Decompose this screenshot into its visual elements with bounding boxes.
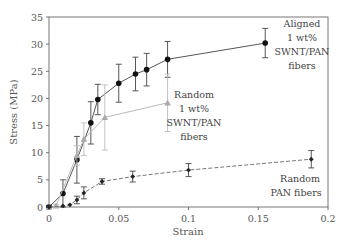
x-axis: 00.050.10.150.2 xyxy=(46,207,336,224)
x-tick-label: 0 xyxy=(46,213,52,224)
data-point-circle xyxy=(165,57,171,63)
annotation-aligned-line-4: fibers xyxy=(288,60,316,71)
annotation-aligned-line-2: 1 wt% xyxy=(287,32,317,43)
stress-strain-chart: 05101520253035 00.050.10.150.2 Strain St… xyxy=(0,0,351,247)
series-line xyxy=(49,43,265,207)
data-point-diamond xyxy=(130,174,135,179)
y-tick-label: 25 xyxy=(31,66,43,77)
data-point-circle xyxy=(95,97,101,103)
annotation-random-pan-line-1: Random xyxy=(280,173,320,184)
series-2 xyxy=(47,151,315,210)
x-tick-label: 0.05 xyxy=(108,213,129,224)
annotation-random-swnt: Random 1 wt% SWNT/PAN fibers xyxy=(167,89,222,142)
data-point-triangle xyxy=(53,203,60,209)
y-axis-title: Stress (MPa) xyxy=(8,79,19,144)
series-line xyxy=(49,159,311,207)
annotation-random-swnt-line-3: SWNT/PAN xyxy=(167,117,222,128)
annotation-random-swnt-line-4: fibers xyxy=(180,131,208,142)
data-point-diamond xyxy=(186,168,191,173)
annotation-random-pan-line-2: PAN fibers xyxy=(270,187,321,198)
x-tick-label: 0.1 xyxy=(181,213,196,224)
y-tick-label: 10 xyxy=(31,147,43,158)
y-tick-label: 15 xyxy=(31,120,43,131)
data-point-circle xyxy=(133,71,139,77)
x-tick-label: 0.15 xyxy=(248,213,269,224)
data-point-circle xyxy=(262,40,268,46)
y-tick-label: 0 xyxy=(37,202,43,213)
data-point-diamond xyxy=(309,157,314,162)
data-point-diamond xyxy=(61,204,66,209)
series-0 xyxy=(46,28,268,209)
y-tick-label: 35 xyxy=(31,12,43,23)
annotation-random-swnt-line-2: 1 wt% xyxy=(179,103,209,114)
annotation-aligned-line-3: SWNT/PAN xyxy=(275,46,330,57)
data-point-diamond xyxy=(100,179,105,184)
annotation-random-pan: Random PAN fibers xyxy=(270,173,321,198)
series-line xyxy=(49,103,168,207)
y-tick-label: 20 xyxy=(31,93,43,104)
y-tick-label: 30 xyxy=(31,39,43,50)
data-point-circle xyxy=(116,80,122,86)
annotation-aligned: Aligned 1 wt% SWNT/PAN fibers xyxy=(275,18,330,71)
y-axis: 05101520253035 xyxy=(31,12,49,213)
data-point-triangle xyxy=(164,99,171,105)
y-tick-label: 5 xyxy=(37,174,43,185)
data-point-circle xyxy=(88,120,94,126)
annotation-aligned-line-1: Aligned xyxy=(283,18,321,29)
x-tick-label: 0.2 xyxy=(320,213,335,224)
data-point-circle xyxy=(144,67,150,73)
annotation-random-swnt-line-1: Random xyxy=(174,89,214,100)
x-axis-title: Strain xyxy=(172,226,204,237)
